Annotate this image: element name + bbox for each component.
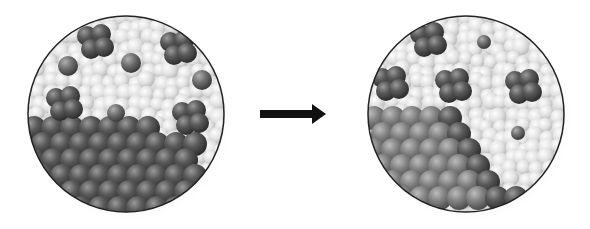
diagram-canvas (0, 0, 590, 229)
panel-after (357, 5, 573, 222)
single-particle (58, 56, 78, 76)
single-particle (107, 104, 125, 122)
single-particle (121, 53, 141, 73)
molecule-cluster (410, 22, 447, 57)
panel-before (18, 5, 233, 222)
molecule-cluster (172, 100, 209, 135)
molecule-cluster (46, 86, 83, 121)
molecule-cluster (505, 69, 542, 104)
molecule-cluster (77, 24, 114, 59)
molecule-cluster (435, 68, 472, 103)
arrow-icon (260, 104, 326, 124)
diagram (0, 0, 590, 229)
single-particle (511, 126, 525, 140)
single-particle (477, 35, 491, 49)
single-particle (192, 70, 212, 90)
